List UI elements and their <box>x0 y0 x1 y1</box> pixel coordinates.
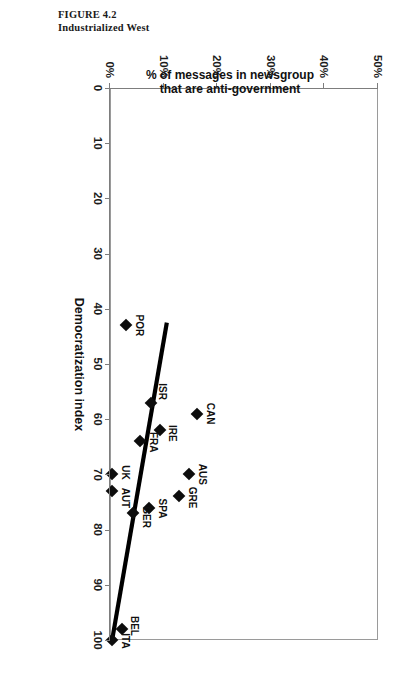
data-point-label: GRE <box>186 487 197 509</box>
x-tick-label: 20 <box>92 192 104 205</box>
x-tick-label: 10 <box>92 137 104 150</box>
data-point-label: CAN <box>205 403 216 425</box>
x-tick-label: 70 <box>92 468 104 481</box>
y-axis-title-line1: % of messages in newsgroup <box>80 68 380 82</box>
x-tick-label: 80 <box>92 523 104 536</box>
plot-area <box>110 88 378 640</box>
x-tick <box>105 309 110 310</box>
x-tick-label: 50 <box>92 358 104 371</box>
x-tick <box>105 364 110 365</box>
data-point-label: SPA <box>156 499 167 519</box>
y-axis-title: % of messages in newsgroup that are anti… <box>80 68 380 96</box>
x-tick <box>105 143 110 144</box>
x-tick <box>105 474 110 475</box>
x-tick <box>105 640 110 641</box>
x-tick <box>105 530 110 531</box>
y-axis-title-line2: that are anti-government <box>80 82 380 96</box>
data-point-label: AUS <box>197 464 208 485</box>
data-point-label: IRE <box>166 425 177 442</box>
x-tick <box>105 419 110 420</box>
data-point-label: FRA <box>148 432 159 453</box>
data-point-label: ITA <box>120 633 131 648</box>
data-point-label: GER <box>140 506 151 528</box>
x-tick-label: 90 <box>92 578 104 591</box>
data-point-label: UK <box>120 465 131 479</box>
data-point-label: AUT <box>120 488 131 509</box>
x-axis-title: Democratization index <box>72 88 86 641</box>
x-tick-label: 100 <box>92 630 104 649</box>
x-tick <box>105 254 110 255</box>
data-point-label: POR <box>134 315 145 337</box>
x-tick-label: 30 <box>92 247 104 260</box>
scatter-chart: PORISRCANIREFRAUKAUSAUTGRESPAGERBELITA 0… <box>56 28 392 656</box>
x-tick <box>105 198 110 199</box>
x-tick-label: 40 <box>92 302 104 315</box>
x-tick-label: 60 <box>92 413 104 426</box>
data-point-label: ISR <box>156 383 167 400</box>
figure-number: FIGURE 4.2 <box>58 8 288 21</box>
x-tick <box>105 585 110 586</box>
